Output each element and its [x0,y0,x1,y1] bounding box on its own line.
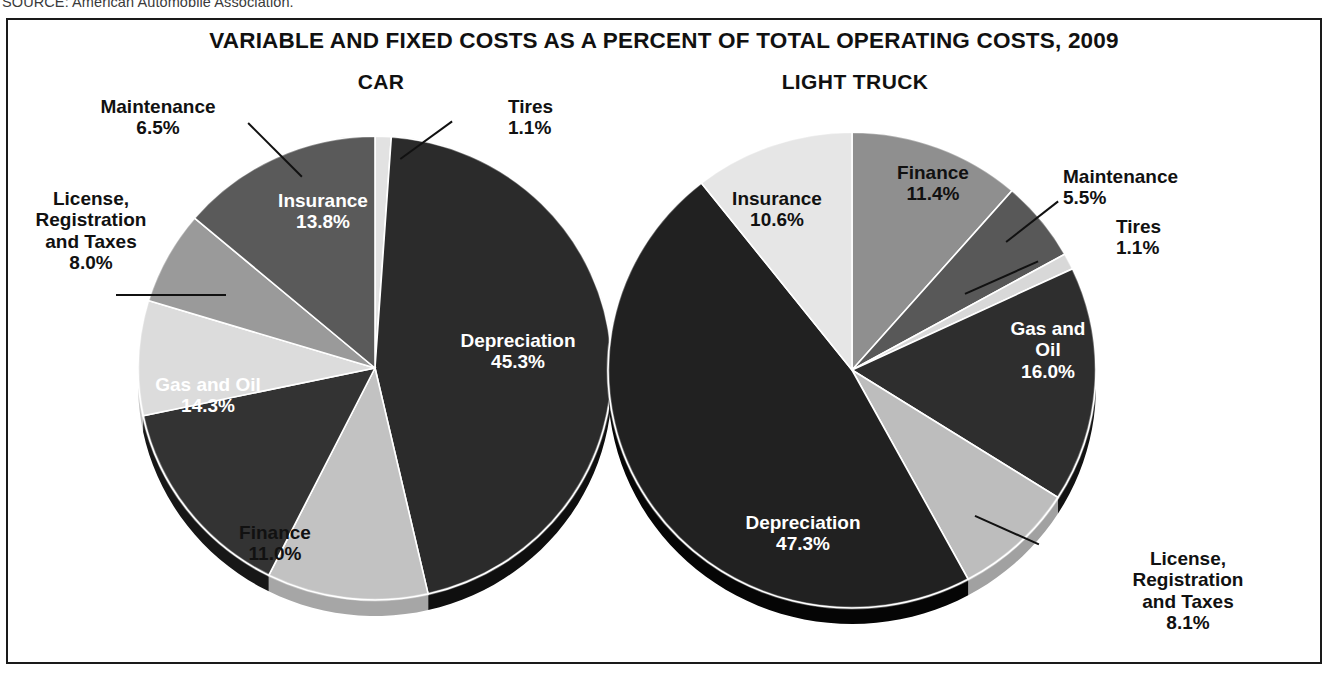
source-note: SOURCE: American Automobile Association. [2,0,294,10]
chart-frame: VARIABLE AND FIXED COSTS AS A PERCENT OF… [6,18,1322,664]
truck-maintenance-callout: Maintenance 5.5% [1063,166,1273,209]
car-license-callout: License, Registration and Taxes 8.0% [16,188,166,273]
car-license-leader-line [116,294,226,296]
truck-panel-title: LIGHT TRUCK [705,70,1005,94]
truck-license-callout: License, Registration and Taxes 8.1% [1093,548,1283,633]
car-maintenance-callout: Maintenance 6.5% [63,96,253,139]
truck-pie-chart [598,112,1118,632]
car-pie-chart [123,120,623,620]
truck-tires-callout: Tires 1.1% [1116,216,1246,259]
chart-title: VARIABLE AND FIXED COSTS AS A PERCENT OF… [8,28,1320,54]
car-panel-title: CAR [251,70,511,94]
car-tires-callout: Tires 1.1% [508,96,638,139]
